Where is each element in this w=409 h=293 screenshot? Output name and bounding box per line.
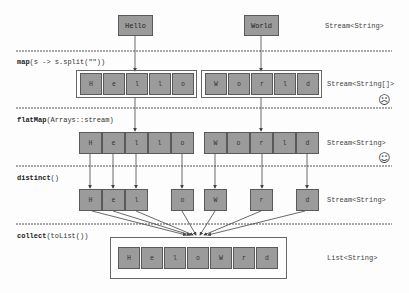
source-word-world: World xyxy=(244,15,279,36)
smiley-face-icon: ☺ xyxy=(378,152,391,164)
collect-op-name: collect xyxy=(17,232,46,240)
distinct-op-args: () xyxy=(51,174,59,182)
distinct-cell: e xyxy=(102,189,125,211)
flatmap-cell: o xyxy=(227,132,250,154)
map-cell: W xyxy=(205,73,227,95)
collect-cell: l xyxy=(164,247,186,269)
flatmap-cell: e xyxy=(102,132,125,154)
flatmap-op-name: flatMap xyxy=(17,116,46,124)
map-cell: e xyxy=(103,73,125,95)
flatmap-cell: o xyxy=(171,132,194,154)
flatmap-cell: H xyxy=(79,132,102,154)
sad-face-icon: ☹ xyxy=(378,94,391,106)
source-word-hello: Hello xyxy=(118,15,153,36)
distinct-cell: o xyxy=(171,189,194,211)
map-op-label: map(s -> s.split("")) xyxy=(17,58,105,66)
map-cell: o xyxy=(228,73,250,95)
flatmap-op-label: flatMap(Arrays::stream) xyxy=(17,116,114,124)
flatmap-cell: l xyxy=(148,132,171,154)
distinct-op-name: distinct xyxy=(17,174,51,182)
map-cell: l xyxy=(149,73,171,95)
flatmap-cell: d xyxy=(296,132,319,154)
flatmap-type-label: Stream<String> xyxy=(327,139,386,147)
collect-cell: d xyxy=(256,247,278,269)
map-op-args: (s -> s.split("")) xyxy=(30,58,106,66)
distinct-cell: d xyxy=(296,189,319,211)
map-cell: d xyxy=(297,73,319,95)
distinct-type-label: Stream<String> xyxy=(327,196,386,204)
flatmap-cell: l xyxy=(125,132,148,154)
collect-cell: H xyxy=(118,247,140,269)
distinct-cell: W xyxy=(204,189,227,211)
collect-cell: r xyxy=(233,247,255,269)
flatmap-cell: l xyxy=(273,132,296,154)
flatmap-cell: W xyxy=(204,132,227,154)
collect-op-args: (toList()) xyxy=(46,232,88,240)
map-cell: o xyxy=(172,73,194,95)
map-cell: l xyxy=(126,73,148,95)
distinct-cell: r xyxy=(250,189,273,211)
map-cell: l xyxy=(274,73,296,95)
collect-cell: e xyxy=(141,247,163,269)
distinct-cell: l xyxy=(125,189,148,211)
flatmap-cell: r xyxy=(250,132,273,154)
distinct-cell: H xyxy=(79,189,102,211)
map-op-name: map xyxy=(17,58,30,66)
map-cell: H xyxy=(80,73,102,95)
collect-op-label: collect(toList()) xyxy=(17,232,88,240)
collect-type-label: List<String> xyxy=(327,254,377,262)
map-cell: r xyxy=(251,73,273,95)
distinct-op-label: distinct() xyxy=(17,174,59,182)
map-type-label: Stream<String[]> xyxy=(327,80,394,88)
collect-cell: o xyxy=(187,247,209,269)
source-type-label: Stream<String> xyxy=(325,22,384,30)
collect-cell: W xyxy=(210,247,232,269)
flatmap-op-args: (Arrays::stream) xyxy=(46,116,113,124)
flatmap-diagram: Hello World Stream<String> map(s -> s.sp… xyxy=(0,0,409,293)
